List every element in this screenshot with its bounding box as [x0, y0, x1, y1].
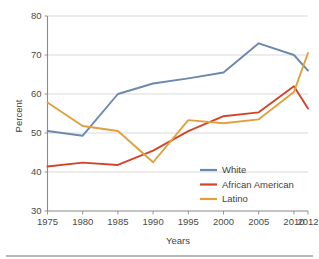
- legend-label-african-american: African American: [222, 179, 294, 190]
- x-tick-label-1975: 1975: [37, 216, 58, 227]
- y-axis-title: Percent: [13, 99, 24, 132]
- x-tick-label-1985: 1985: [107, 216, 128, 227]
- y-tick-label-60: 60: [31, 88, 42, 99]
- y-tick-label-70: 70: [31, 49, 42, 60]
- legend-label-white: White: [222, 164, 246, 175]
- x-tick-label-1995: 1995: [178, 216, 199, 227]
- y-tick-label-30: 30: [31, 205, 42, 216]
- x-tick-label-1980: 1980: [72, 216, 93, 227]
- chart-figure: 304050607080 197519801985199019952000200…: [0, 0, 319, 259]
- line-chart: 304050607080 197519801985199019952000200…: [0, 0, 319, 259]
- x-axis-title: Years: [166, 235, 190, 246]
- y-tick-label-40: 40: [31, 166, 42, 177]
- x-tick-label-2012: 2012: [297, 216, 318, 227]
- x-tick-label-1990: 1990: [143, 216, 164, 227]
- y-tick-label-50: 50: [31, 127, 42, 138]
- y-tick-label-80: 80: [31, 10, 42, 21]
- x-tick-label-2000: 2000: [213, 216, 234, 227]
- legend-label-latino: Latino: [222, 193, 248, 204]
- x-tick-label-2005: 2005: [248, 216, 269, 227]
